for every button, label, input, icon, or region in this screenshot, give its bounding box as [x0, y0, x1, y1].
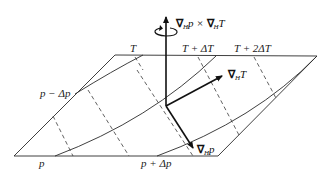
cross-product-label: ∇Hp × ∇HT	[175, 17, 226, 31]
label-p-minus-dp: p − Δp	[39, 87, 71, 99]
isobar-p-plus-dp	[157, 56, 317, 156]
isobar-p	[55, 56, 216, 156]
isotherm-T	[137, 70, 193, 156]
vectors	[155, 17, 222, 148]
isotherm-left	[53, 116, 73, 156]
isotherm-T-short	[135, 57, 143, 70]
label-T-plus-2dT: T + 2ΔT	[234, 42, 272, 54]
label-p: p	[38, 157, 45, 169]
surface-top-edge	[115, 55, 317, 56]
isotherm-T-plus-2dT	[254, 57, 277, 100]
grad-T-label: ∇HT	[227, 68, 247, 82]
label-T-plus-dT: T + ΔT	[182, 42, 214, 54]
surface-left-edge	[14, 55, 115, 156]
isobars	[55, 55, 317, 156]
gradient-diagram: ∇Hp × ∇HT ∇HT ∇Hp T T + ΔT T + 2ΔT p − Δ…	[0, 0, 327, 175]
isotherm-2	[88, 90, 129, 156]
grad-p-vector	[166, 106, 193, 148]
label-p-plus-dp: p + Δp	[140, 157, 172, 169]
label-T: T	[130, 42, 137, 54]
labels: ∇Hp × ∇HT ∇HT ∇Hp T T + ΔT T + 2ΔT p − Δ…	[38, 17, 272, 169]
grad-p-label: ∇Hp	[196, 143, 215, 157]
